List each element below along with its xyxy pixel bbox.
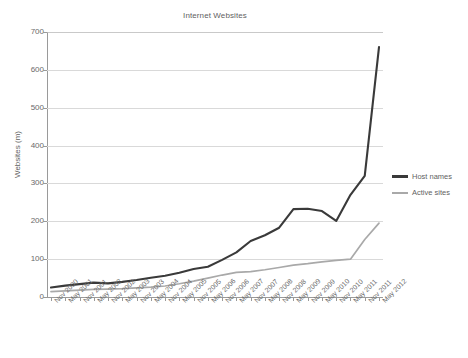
- y-axis-tick-label: 500: [10, 104, 44, 112]
- y-axis-tick-label: 100: [10, 255, 44, 263]
- y-axis-tickmark: [43, 297, 47, 298]
- chart-title: Internet Websites: [40, 11, 390, 20]
- chart-container: Internet Websites Websites (m) 010020030…: [0, 0, 468, 358]
- y-axis-tickmark: [43, 108, 47, 109]
- legend-item-active-sites[interactable]: Active sites: [392, 188, 468, 197]
- y-axis-tickmark: [43, 32, 47, 33]
- x-axis-labels: Nov 2000May 2001Nov 2001May 2002Nov 2002…: [0, 297, 468, 358]
- y-axis-tickmark: [43, 221, 47, 222]
- chart-legend: Host names Active sites: [392, 172, 468, 204]
- legend-swatch-active-sites-icon: [392, 192, 408, 194]
- y-axis-tick-label: 700: [10, 28, 44, 36]
- series-line-host-names: [51, 47, 379, 287]
- legend-label-active-sites: Active sites: [412, 188, 450, 197]
- y-axis-tickmark: [43, 259, 47, 260]
- legend-label-host-names: Host names: [412, 172, 452, 181]
- y-axis-tick-label: 600: [10, 66, 44, 74]
- series-lines: [47, 32, 383, 297]
- y-axis-tickmark: [43, 183, 47, 184]
- y-axis-tick-label: 200: [10, 217, 44, 225]
- legend-swatch-host-names-icon: [392, 175, 408, 178]
- y-axis-tickmark: [43, 146, 47, 147]
- y-axis-tickmark: [43, 70, 47, 71]
- y-axis-tick-label: 300: [10, 179, 44, 187]
- plot-area: [47, 32, 383, 297]
- legend-item-host-names[interactable]: Host names: [392, 172, 468, 181]
- y-axis-tick-label: 400: [10, 142, 44, 150]
